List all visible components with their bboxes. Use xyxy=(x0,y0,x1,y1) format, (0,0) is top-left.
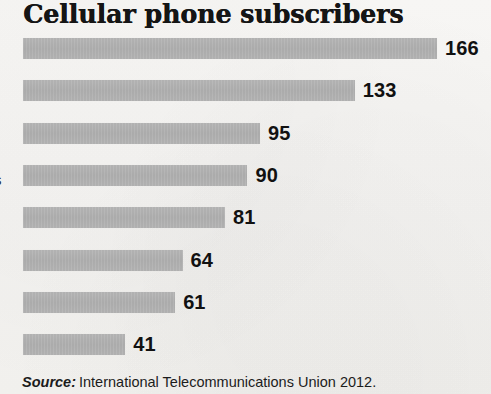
bar-row: 133 xyxy=(0,80,491,101)
bar-value-label: 81 xyxy=(233,207,255,228)
source-text: International Telecommunications Union 2… xyxy=(79,374,376,390)
bar xyxy=(23,38,437,59)
source-label: Source: xyxy=(22,374,76,390)
bar-value-label: 95 xyxy=(268,123,290,144)
bar-value-label: 133 xyxy=(363,80,397,101)
source-note: Source:International Telecommunications … xyxy=(22,373,376,391)
bar xyxy=(23,123,260,144)
chart-title: Cellular phone subscribers xyxy=(23,0,463,29)
bar-value-label: 90 xyxy=(255,165,277,186)
bar-chart-plot-area: 166133959081646141 xyxy=(0,30,491,360)
bar xyxy=(23,334,125,355)
bar xyxy=(23,207,225,228)
bar-row: 166 xyxy=(0,38,491,59)
bar-value-label: 166 xyxy=(445,38,479,59)
bar-row: 64 xyxy=(0,250,491,271)
bar xyxy=(23,80,355,101)
bar-value-label: 41 xyxy=(133,334,155,355)
bar-row: 41 xyxy=(0,334,491,355)
bar xyxy=(23,292,175,313)
bar-value-label: 61 xyxy=(183,292,205,313)
bar-row: 61 xyxy=(0,292,491,313)
bar-value-label: 64 xyxy=(191,250,213,271)
bar xyxy=(23,250,183,271)
bar-row: 95 xyxy=(0,123,491,144)
bar-row: 81 xyxy=(0,207,491,228)
bar-row: 90 xyxy=(0,165,491,186)
bar xyxy=(23,165,247,186)
chart-figure: Cellular phone subscribers s 16613395908… xyxy=(0,0,491,394)
